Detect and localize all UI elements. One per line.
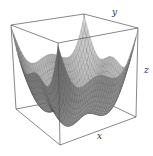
box-edge-top-back-right — [84, 14, 138, 28]
surface-plot: y z x — [0, 0, 153, 156]
box-edge-top-front-right — [58, 28, 138, 43]
box-edge-top-front-left — [11, 25, 58, 43]
box-edge-vertical-right — [136, 28, 138, 117]
x-axis-label: x — [97, 131, 102, 141]
y-axis-label: y — [111, 7, 118, 17]
z-axis-label: z — [143, 65, 149, 75]
box-edge-top-back-left — [11, 14, 84, 25]
box-edge-bottom-front-left — [16, 109, 60, 145]
